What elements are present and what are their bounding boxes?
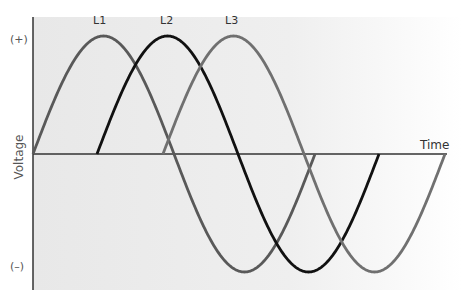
x-axis-label: Time [420, 138, 449, 152]
waveform-plot [0, 0, 462, 304]
three-phase-diagram: L1 L2 L3 (+) (–) Voltage Time [0, 0, 462, 304]
label-l1: L1 [93, 14, 106, 27]
y-tick-positive: (+) [10, 33, 28, 46]
y-tick-negative: (–) [10, 260, 24, 273]
y-axis-label: Voltage [12, 134, 26, 179]
label-l2: L2 [160, 14, 173, 27]
label-l3: L3 [225, 14, 238, 27]
